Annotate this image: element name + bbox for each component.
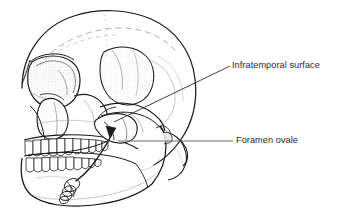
anatomical-figure: Infratemporal surface Foramen ovale	[0, 0, 338, 220]
mandible-ramus-anterior	[136, 164, 148, 188]
nerve-coil	[59, 176, 82, 204]
mental-foramen-area	[36, 177, 68, 179]
mandible-inferior-border	[34, 174, 156, 199]
label-infratemporal-surface: Infratemporal surface	[232, 60, 320, 71]
skull-illustration	[0, 0, 338, 220]
skull-group	[21, 11, 233, 206]
lower-teeth-row	[26, 157, 101, 172]
greater-wing-sphenoid	[100, 47, 154, 105]
nasal-aperture	[37, 98, 68, 139]
label-foramen-ovale: Foramen ovale	[236, 135, 298, 146]
